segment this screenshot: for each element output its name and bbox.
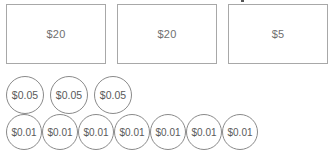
coin-nickel-2[interactable]: $0.05: [50, 76, 88, 114]
coin-penny-3[interactable]: $0.01: [78, 114, 114, 150]
coin-nickel-1[interactable]: $0.05: [6, 76, 44, 114]
coin-penny-1[interactable]: $0.01: [6, 114, 42, 150]
bill-label: $5: [272, 28, 285, 40]
cut-off-text-fragment: [241, 0, 244, 2]
bill-20-second[interactable]: $20: [117, 4, 217, 64]
coin-label: $0.01: [227, 127, 252, 138]
coin-penny-2[interactable]: $0.01: [42, 114, 78, 150]
bill-5[interactable]: $5: [228, 4, 328, 64]
coin-label: $0.01: [47, 127, 72, 138]
coin-label: $0.05: [100, 89, 126, 101]
coin-label: $0.01: [83, 127, 108, 138]
coin-nickel-3[interactable]: $0.05: [94, 76, 132, 114]
coin-penny-4[interactable]: $0.01: [114, 114, 150, 150]
bill-label: $20: [158, 28, 177, 40]
coin-label: $0.01: [119, 127, 144, 138]
coin-label: $0.01: [155, 127, 180, 138]
coin-penny-7[interactable]: $0.01: [222, 114, 258, 150]
coin-label: $0.01: [191, 127, 216, 138]
bill-label: $20: [47, 28, 66, 40]
coin-label: $0.05: [12, 89, 38, 101]
coin-penny-6[interactable]: $0.01: [186, 114, 222, 150]
coin-label: $0.01: [11, 127, 36, 138]
coin-penny-5[interactable]: $0.01: [150, 114, 186, 150]
coin-label: $0.05: [56, 89, 82, 101]
bill-20-first[interactable]: $20: [6, 4, 106, 64]
